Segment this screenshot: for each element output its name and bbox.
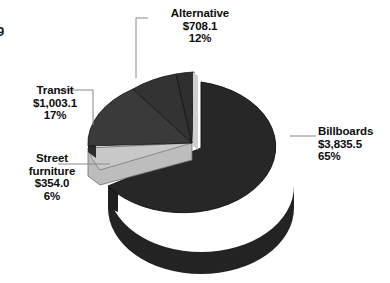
slice-label-alternative: Alternative $708.1 12% xyxy=(148,7,252,45)
slice-label-billboards: Billboards $3,835.5 65% xyxy=(318,125,390,163)
slice-label-street-furniture-name-line1: Street xyxy=(2,152,102,165)
cropped-edge-glyph: 9 xyxy=(0,24,4,39)
pie-explode-gap xyxy=(193,72,198,150)
slice-label-alternative-percent: 12% xyxy=(148,32,252,45)
slice-label-street-furniture-name-line2: furniture xyxy=(2,165,102,178)
slice-label-billboards-name: Billboards xyxy=(318,125,390,138)
slice-label-street-furniture-percent: 6% xyxy=(2,190,102,203)
slice-label-street-furniture-value: $354.0 xyxy=(2,177,102,190)
slice-label-street-furniture: Street furniture $354.0 6% xyxy=(2,152,102,202)
slice-label-billboards-percent: 65% xyxy=(318,150,390,163)
slice-label-alternative-value: $708.1 xyxy=(148,20,252,33)
pie-chart-figure: Alternative $708.1 12% Transit $1,003.1 … xyxy=(0,0,390,283)
slice-label-transit-name: Transit xyxy=(8,84,102,97)
slice-label-transit-value: $1,003.1 xyxy=(8,97,102,110)
slice-label-transit-percent: 17% xyxy=(8,109,102,122)
slice-label-billboards-value: $3,835.5 xyxy=(318,138,390,151)
slice-label-transit: Transit $1,003.1 17% xyxy=(8,84,102,122)
slice-label-alternative-name: Alternative xyxy=(148,7,252,20)
